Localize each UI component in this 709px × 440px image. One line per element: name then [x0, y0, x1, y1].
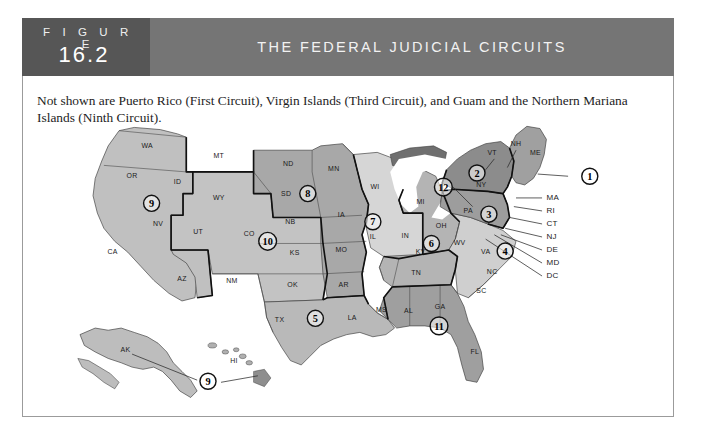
state-label-la: LA — [348, 314, 357, 321]
state-label-ut: UT — [193, 228, 203, 235]
state-label-ar: AR — [338, 281, 348, 288]
side-label-ma: MA — [546, 193, 559, 202]
circuit-marker-number: 12 — [438, 182, 448, 193]
state-label-mi: MI — [416, 198, 424, 205]
circuit-marker-number: 8 — [305, 188, 310, 199]
figure-number-block: F I G U R E 16.2 — [22, 18, 150, 76]
state-label-vt: VT — [487, 149, 497, 156]
figure-note: Not shown are Puerto Rico (First Circuit… — [37, 92, 637, 126]
circuit-marker-5: 5 — [307, 310, 323, 326]
state-label-nc: NC — [487, 268, 498, 275]
side-labels: MARICTNJDEMDDC — [546, 193, 559, 280]
state-label-ny: NY — [476, 181, 486, 188]
state-label-fl: FL — [470, 348, 479, 355]
state-label-sc: SC — [476, 287, 486, 294]
state-label-co: CO — [244, 230, 255, 237]
state-label-ak: AK — [121, 346, 131, 353]
circuit-marker-11: 11 — [430, 317, 448, 335]
state-label-or: OR — [127, 172, 138, 179]
circuit-marker-1: 1 — [582, 168, 598, 184]
figure-body: Not shown are Puerto Rico (First Circuit… — [22, 76, 674, 417]
side-label-md: MD — [546, 258, 559, 267]
state-label-nb: NB — [285, 218, 295, 225]
state-label-az: AZ — [177, 275, 187, 282]
side-label-de: DE — [546, 245, 558, 254]
circuit-1 — [510, 126, 547, 185]
side-label-nj: NJ — [546, 232, 557, 241]
circuit-marker-7: 7 — [365, 214, 381, 230]
state-label-mt: MT — [214, 152, 225, 159]
state-label-nd: ND — [283, 160, 294, 167]
circuit-marker-number: 11 — [434, 321, 444, 332]
figure-card: F I G U R E 16.2 THE FEDERAL JUDICIAL CI… — [22, 18, 674, 418]
state-label-hi: HI — [230, 357, 238, 364]
state-label-oh: OH — [436, 222, 447, 229]
state-label-tx: TX — [275, 316, 285, 323]
alaska-aleutians — [78, 358, 119, 388]
side-label-dc: DC — [546, 271, 558, 280]
state-label-mn: MN — [328, 165, 339, 172]
hawaii-islands — [208, 343, 271, 387]
state-label-nv: NV — [153, 220, 163, 227]
circuit-marker-number: 1 — [587, 171, 592, 182]
state-label-wy: WY — [213, 194, 225, 201]
circuit-marker-9: 9 — [144, 195, 160, 211]
circuit-marker-9: 9 — [200, 373, 216, 389]
state-label-mo: MO — [335, 246, 347, 253]
side-label-ri: RI — [546, 206, 555, 215]
figure-number: 16.2 — [28, 42, 140, 68]
circuit-marker-2: 2 — [469, 165, 485, 181]
state-label-wi: WI — [370, 183, 379, 190]
state-label-il: IL — [370, 233, 376, 240]
circuit-marker-12: 12 — [434, 178, 452, 196]
state-label-in: IN — [402, 232, 410, 239]
state-label-al: AL — [404, 307, 413, 314]
circuit-marker-number: 7 — [370, 216, 375, 227]
circuit-marker-number: 4 — [503, 246, 508, 257]
circuit-marker-number: 6 — [429, 238, 434, 249]
state-label-wv: WV — [454, 239, 466, 246]
circuit-marker-6: 6 — [423, 235, 439, 251]
state-label-ms: MS — [376, 306, 387, 313]
us-judicial-circuits-map: WAORIDMTNDMNSDWYNVUTCONBIAWIMICAAZNMKSMO… — [31, 122, 667, 404]
figure-title: THE FEDERAL JUDICIAL CIRCUITS — [150, 18, 674, 76]
circuit-marker-3: 3 — [481, 206, 497, 222]
state-label-me: ME — [530, 149, 541, 156]
figure-header: F I G U R E 16.2 THE FEDERAL JUDICIAL CI… — [22, 18, 674, 76]
state-label-ga: GA — [435, 303, 446, 310]
state-label-nh: NH — [511, 140, 522, 147]
state-label-tn: TN — [411, 269, 421, 276]
state-label-pa: PA — [464, 207, 473, 214]
state-label-ok: OK — [287, 281, 298, 288]
circuit-marker-number: 2 — [474, 168, 479, 179]
circuit-11 — [379, 285, 483, 383]
circuit-marker-number: 9 — [205, 376, 210, 387]
state-label-sd: SD — [281, 190, 291, 197]
circuit-marker-number: 10 — [263, 236, 273, 247]
state-label-ks: KS — [290, 249, 300, 256]
circuit-marker-number: 3 — [486, 209, 491, 220]
state-label-ca: CA — [107, 248, 117, 255]
circuit-marker-number: 5 — [313, 313, 318, 324]
circuit-marker-8: 8 — [300, 186, 316, 202]
alaska — [80, 328, 197, 397]
state-label-ia: IA — [338, 211, 345, 218]
state-label-wa: WA — [141, 142, 153, 149]
circuit-marker-10: 10 — [259, 232, 277, 250]
state-label-va: VA — [481, 248, 490, 255]
state-label-nm: NM — [226, 277, 237, 284]
state-label-ky: KY — [416, 248, 426, 255]
side-label-ct: CT — [546, 219, 558, 228]
circuit-marker-4: 4 — [497, 243, 513, 259]
circuit-marker-number: 9 — [149, 198, 154, 209]
state-label-id: ID — [174, 178, 182, 185]
